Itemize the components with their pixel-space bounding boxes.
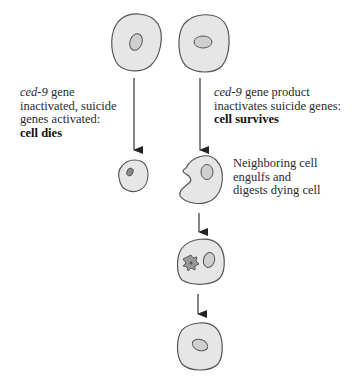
nucleus <box>201 165 213 180</box>
left-normal-cell <box>112 14 162 71</box>
dying-cell <box>119 160 148 192</box>
label-cell-dies: ced-9 gene inactivated, suicide genes ac… <box>20 86 117 140</box>
digesting-cell <box>178 239 225 284</box>
outcome-cell-survives: cell survives <box>214 112 279 126</box>
gene-name: ced-9 <box>20 85 48 99</box>
label-cell-survives: ced-9 gene product inactivates suicide g… <box>214 86 341 127</box>
label-engulfs: Neighboring cell engulfs and digests dyi… <box>233 157 321 198</box>
gene-name: ced-9 <box>214 85 242 99</box>
outcome-cell-dies: cell dies <box>20 126 62 140</box>
final-normal-cell <box>178 323 223 370</box>
engulfing-cell <box>180 156 223 204</box>
right-normal-cell <box>179 15 229 72</box>
nucleus <box>194 36 212 48</box>
